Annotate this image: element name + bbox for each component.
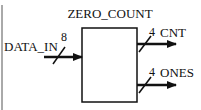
- output-label: CNT: [160, 25, 186, 40]
- bus-width-label: 8: [61, 30, 67, 44]
- output-cnt: 4 CNT: [137, 25, 186, 52]
- block-diagram: ZERO_COUNT DATA_IN 8 4 CNT 4 ONES: [0, 0, 201, 110]
- output-ones: 4 ONES: [137, 65, 194, 93]
- bus-width-label: 4: [149, 65, 155, 79]
- output-label: ONES: [160, 65, 194, 80]
- block-title: ZERO_COUNT: [67, 6, 152, 21]
- zero-count-block: [82, 28, 137, 102]
- input-label: DATA_IN: [4, 39, 58, 54]
- input-data-in: DATA_IN 8: [4, 30, 82, 64]
